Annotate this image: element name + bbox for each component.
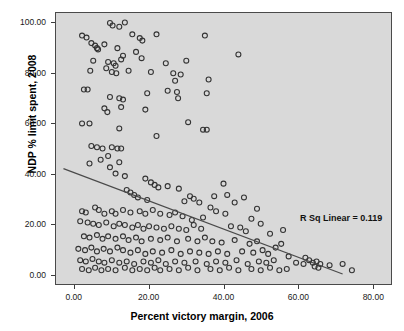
data-point [227, 265, 232, 270]
y-tick-label: 60.00 [2, 118, 46, 128]
data-point [169, 248, 174, 253]
data-point [83, 259, 88, 264]
data-point [96, 223, 101, 228]
data-point [145, 268, 150, 273]
data-point [130, 268, 135, 273]
data-point [121, 207, 126, 212]
data-point [145, 91, 150, 96]
data-point [156, 185, 161, 190]
data-point [148, 69, 153, 74]
data-point [158, 238, 163, 243]
data-point [197, 200, 202, 205]
data-point [238, 225, 243, 230]
data-point [217, 268, 222, 273]
data-point [96, 259, 101, 264]
data-point [107, 95, 112, 100]
data-point [294, 260, 299, 265]
data-point [96, 47, 101, 52]
x-tick-label: 80.00 [363, 292, 384, 302]
data-point [109, 145, 114, 150]
data-point [167, 266, 172, 271]
data-point [160, 250, 165, 255]
data-point [165, 235, 170, 240]
data-point [126, 68, 131, 73]
data-point [137, 209, 142, 214]
data-point [139, 56, 144, 61]
data-point [215, 249, 220, 254]
x-tick-label: 40.00 [213, 292, 234, 302]
data-point [124, 259, 129, 264]
data-point [236, 52, 241, 57]
data-point [264, 260, 269, 265]
data-point [243, 229, 248, 234]
data-point [206, 251, 211, 256]
data-point [119, 105, 124, 110]
data-point [148, 236, 153, 241]
data-point [284, 266, 289, 271]
data-point [102, 260, 107, 265]
data-point [232, 200, 237, 205]
data-point [167, 213, 172, 218]
data-point [251, 250, 256, 255]
data-point [76, 246, 81, 251]
data-point [171, 71, 176, 76]
data-point [258, 221, 263, 226]
data-point [260, 248, 265, 253]
data-point [99, 268, 104, 273]
data-point [165, 184, 170, 189]
data-point [178, 251, 183, 256]
data-point [78, 219, 83, 224]
data-point [245, 261, 250, 266]
data-point [277, 268, 282, 273]
x-axis-title: Percent victory margin, 2006 [0, 310, 404, 322]
scatter-svg [56, 13, 391, 284]
data-point [154, 225, 159, 230]
x-tick-mark [149, 285, 150, 289]
x-tick-mark [373, 285, 374, 289]
data-point [113, 268, 118, 273]
data-point [128, 210, 133, 215]
data-point [249, 266, 254, 271]
data-point [178, 72, 183, 77]
data-point [204, 91, 209, 96]
data-point [106, 266, 111, 271]
data-point [111, 224, 116, 229]
data-point [268, 231, 273, 236]
data-point [143, 251, 148, 256]
data-point [247, 241, 252, 246]
data-point [158, 268, 163, 273]
data-point [83, 248, 88, 253]
data-point [150, 249, 155, 254]
data-point [113, 171, 118, 176]
data-point [232, 238, 237, 243]
x-tick-label: 60.00 [288, 292, 309, 302]
data-point [94, 145, 99, 150]
data-point [197, 250, 202, 255]
data-point [191, 196, 196, 201]
x-tick-label: 20.00 [138, 292, 159, 302]
data-point [182, 260, 187, 265]
data-point [81, 234, 86, 239]
data-point [137, 266, 142, 271]
data-point [86, 268, 91, 273]
data-point [161, 226, 166, 231]
y-tick-label: 40.00 [2, 169, 46, 179]
data-point [268, 265, 273, 270]
data-point [139, 239, 144, 244]
data-point [163, 61, 168, 66]
data-point [101, 246, 106, 251]
data-point [206, 77, 211, 82]
data-point [96, 207, 101, 212]
data-point [154, 32, 159, 37]
data-point [212, 194, 217, 199]
data-point [107, 249, 112, 254]
data-point [94, 249, 99, 254]
y-tick-mark [51, 123, 55, 124]
data-point [117, 160, 122, 165]
data-point [327, 263, 332, 268]
x-tick-mark [224, 285, 225, 289]
data-point [132, 261, 137, 266]
data-point [104, 220, 109, 225]
data-point [182, 199, 187, 204]
data-point [202, 33, 207, 38]
